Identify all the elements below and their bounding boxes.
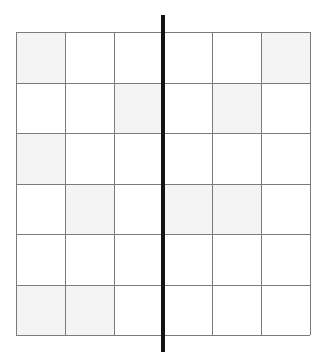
grid-cell-r4-c6 (261, 184, 310, 235)
grid-cell-r4-c1 (16, 184, 65, 235)
vertical-divider-line (161, 15, 166, 352)
grid-cell-r4-c5 (212, 184, 261, 235)
grid-cell-r6-c4 (163, 285, 212, 336)
grid-cell-r5-c5 (212, 234, 261, 285)
grid-cell-r1-c3 (114, 32, 163, 83)
grid-cell-r1-c4 (163, 32, 212, 83)
grid-cell-r3-c4 (163, 133, 212, 184)
grid-cell-r6-c2 (65, 285, 114, 336)
grid-cell-r2-c3 (114, 83, 163, 134)
grid-cell-r6-c1 (16, 285, 65, 336)
grid-cell-r3-c3 (114, 133, 163, 184)
grid-cell-r5-c4 (163, 234, 212, 285)
grid-cell-r1-c1 (16, 32, 65, 83)
grid-cell-r1-c6 (261, 32, 310, 83)
grid-cell-r2-c6 (261, 83, 310, 134)
grid-cell-r1-c5 (212, 32, 261, 83)
grid-cell-r3-c5 (212, 133, 261, 184)
grid-cell-r6-c6 (261, 285, 310, 336)
grid-cell-r4-c2 (65, 184, 114, 235)
grid-cell-r5-c6 (261, 234, 310, 285)
grid-cell-r3-c1 (16, 133, 65, 184)
grid-cell-r3-c2 (65, 133, 114, 184)
grid-cell-r5-c2 (65, 234, 114, 285)
grid-cell-r3-c6 (261, 133, 310, 184)
grid-cell-r5-c3 (114, 234, 163, 285)
grid-cell-r5-c1 (16, 234, 65, 285)
grid-cell-r2-c2 (65, 83, 114, 134)
grid-cell-r4-c3 (114, 184, 163, 235)
grid-cell-r4-c4 (163, 184, 212, 235)
grid-cell-r6-c5 (212, 285, 261, 336)
grid-cell-r1-c2 (65, 32, 114, 83)
grid-cell-r2-c5 (212, 83, 261, 134)
gridline-vertical-6 (310, 32, 311, 335)
grid-cell-r2-c4 (163, 83, 212, 134)
grid-cell-r6-c3 (114, 285, 163, 336)
grid-cell-r2-c1 (16, 83, 65, 134)
figure-root (0, 0, 326, 358)
